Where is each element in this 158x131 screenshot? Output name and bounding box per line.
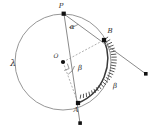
point-marker-a [76,101,80,105]
label-center-o: O [54,52,59,59]
label-angle-beta-center: β [77,64,82,72]
point-marker-ray-pb-end [144,72,148,76]
figure-canvas: P B A O λ α β β [0,0,158,131]
point-marker-b [102,38,106,42]
label-circle-lambda: λ [9,58,16,68]
dashed-radius-oa [63,62,78,103]
ray-p-through-b [64,14,146,74]
label-arc-beta: β [112,82,117,90]
point-marker-p [62,12,66,16]
geometry-figure: P B A O λ α β β [0,0,158,131]
angle-beta-arc [68,66,74,74]
point-marker-o [61,60,65,64]
point-marker-ray-pa-end [78,121,82,125]
label-angle-alpha: α [70,23,75,31]
arc-hatch-ticks [80,37,117,99]
label-point-p: P [58,2,64,10]
label-point-b: B [106,27,112,35]
label-point-a: A [72,106,78,114]
